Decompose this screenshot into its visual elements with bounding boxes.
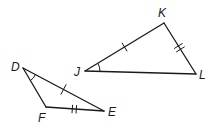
vertex-label-f: F xyxy=(38,111,46,125)
vertex-label-l: L xyxy=(199,68,206,82)
triangle-dfe xyxy=(23,68,104,114)
vertex-label-e: E xyxy=(108,105,117,119)
double-tick-kl-2 xyxy=(176,47,185,52)
vertex-label-j: J xyxy=(73,65,81,79)
vertex-label-d: D xyxy=(11,60,20,74)
double-tick-fe-1 xyxy=(72,105,73,113)
double-tick-kl-1 xyxy=(174,43,183,48)
angle-arc-d xyxy=(30,75,35,81)
single-tick-de xyxy=(61,84,66,94)
vertex-label-k: K xyxy=(158,6,167,20)
segment-jl xyxy=(85,71,196,74)
triangle-jkl xyxy=(85,23,196,74)
double-tick-fe-2 xyxy=(76,105,77,113)
single-tick-jk xyxy=(122,43,127,52)
congruent-triangles-diagram: D F E J K L xyxy=(0,0,215,131)
segment-fe xyxy=(46,107,104,111)
angle-arc-j xyxy=(98,63,100,71)
segment-kl xyxy=(164,23,196,74)
